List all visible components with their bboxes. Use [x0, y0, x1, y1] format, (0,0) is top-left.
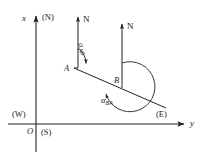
- station-b-label: B: [114, 76, 119, 85]
- survey-line-ab: [74, 68, 166, 108]
- station-a-label: A: [64, 64, 69, 73]
- bearing-diagram-figure: x (N) y (E) (W) (S) O N N A B αAB αBA: [0, 0, 206, 165]
- x-axis-variable-label: x: [22, 14, 26, 23]
- diagram-canvas: [0, 0, 206, 165]
- origin-label: O: [27, 127, 33, 136]
- alpha-ba-arc: [106, 62, 155, 112]
- quadrant-label-west: (W): [12, 110, 26, 119]
- y-axis-variable-label: y: [190, 119, 194, 128]
- north-label-b: N: [127, 22, 134, 31]
- alpha-ba-label: αBA: [101, 96, 113, 105]
- quadrant-label-south: (S): [41, 128, 51, 137]
- quadrant-label-east: (E): [156, 110, 167, 119]
- alpha-ba-subscript: BA: [105, 100, 112, 106]
- north-label-a: N: [83, 15, 90, 24]
- quadrant-label-north: (N): [42, 13, 54, 22]
